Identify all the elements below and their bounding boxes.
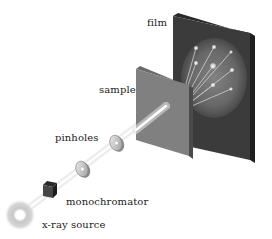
label-monochromator: monochromator xyxy=(66,196,148,207)
monochromator-cube xyxy=(43,181,57,198)
label-pinholes: pinholes xyxy=(55,132,99,143)
label-film: film xyxy=(147,17,167,28)
xray-source-glow xyxy=(4,199,36,231)
label-sample: sample xyxy=(99,84,136,95)
label-xray-source: x-ray source xyxy=(42,219,106,230)
diffraction-diagram: film sample pinholes monochromator x-ray… xyxy=(0,0,272,239)
